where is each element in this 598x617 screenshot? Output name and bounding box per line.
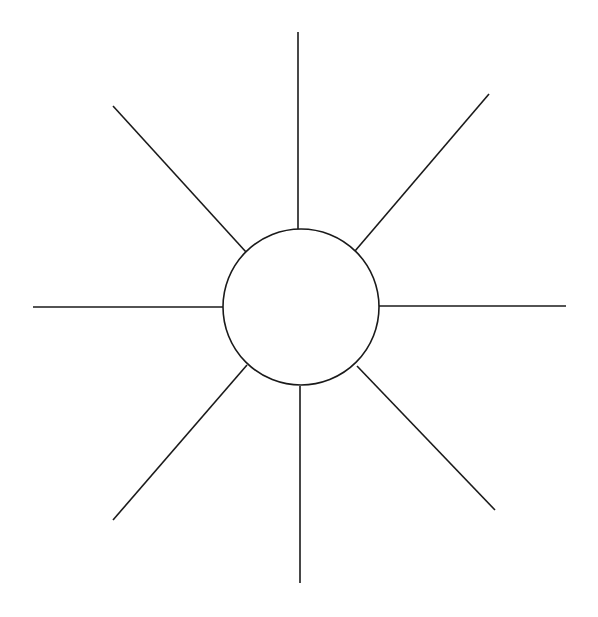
spoke-line-bottom-right xyxy=(357,366,495,510)
spoke-line-top-right xyxy=(355,94,489,251)
spoke-line-bottom-left xyxy=(113,365,247,520)
center-circle xyxy=(223,229,379,385)
spoke-line-top-left xyxy=(113,106,246,252)
spoke-diagram xyxy=(0,0,598,617)
